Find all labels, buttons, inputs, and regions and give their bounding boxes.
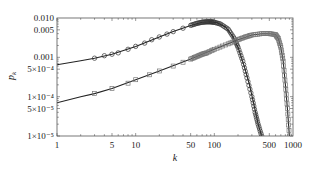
series-layer — [57, 20, 291, 139]
x-tick-label: 1000 — [284, 140, 303, 150]
x-tick-label: 50 — [186, 140, 196, 150]
x-axis-label: k — [173, 152, 178, 163]
x-tick-label: 10 — [131, 140, 141, 150]
x-tick-label: 100 — [208, 140, 222, 150]
x-tick-label: 5 — [110, 140, 115, 150]
y-tick-label: 0.001 — [34, 52, 54, 62]
y-tick-label: 5×10⁻⁴ — [27, 64, 54, 74]
squares-fit-line — [57, 34, 289, 136]
y-tick-label: 1×10⁻⁵ — [27, 131, 54, 141]
y-tick-label: 5×10⁻⁵ — [27, 104, 54, 114]
x-tick-label: 1 — [55, 140, 60, 150]
y-tick-label: 1×10⁻⁴ — [27, 92, 54, 102]
degree-distribution-chart: 15105010050010001×10⁻⁵5×10⁻⁵1×10⁻⁴5×10⁻⁴… — [0, 0, 313, 173]
x-tick-label: 500 — [263, 140, 277, 150]
y-tick-label: 0.005 — [34, 25, 55, 35]
y-tick-label: 0.010 — [34, 13, 55, 23]
y-axis-label: pk — [5, 71, 18, 81]
